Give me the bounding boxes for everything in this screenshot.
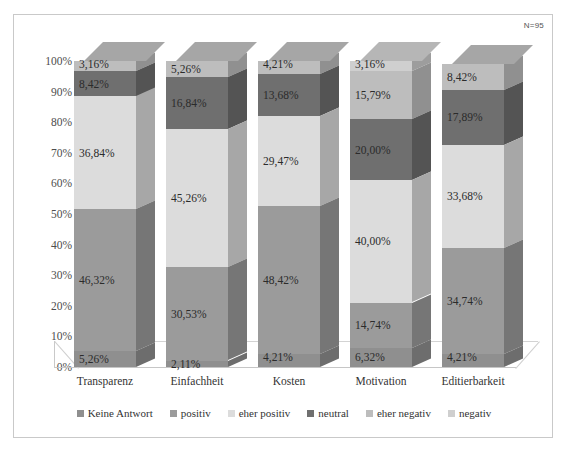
segment-value-label: 14,74%	[355, 319, 390, 331]
segment-value-label: 6,32%	[355, 351, 385, 363]
legend-label: eher negativ	[377, 407, 431, 419]
legend-item-neutral[interactable]: neutral	[307, 407, 349, 419]
y-axis-tick-label: 90%	[26, 86, 72, 98]
segment-side-face	[136, 201, 155, 351]
bar-segment[interactable]: 4,21%	[258, 354, 320, 367]
bar-segment[interactable]: 14,74%	[350, 303, 412, 348]
segment-side-face	[228, 120, 247, 267]
segment-value-label: 48,42%	[263, 274, 298, 286]
segment-value-label: 45,26%	[171, 192, 206, 204]
bar-segment[interactable]: 2,11%	[166, 361, 228, 367]
legend-swatch-icon	[170, 410, 177, 417]
legend-label: neutral	[318, 407, 349, 419]
chart-frame: N=95 0%10%20%30%40%50%60%70%80%90%100% 3…	[13, 14, 553, 438]
bar-segment[interactable]: 3,16%	[350, 61, 412, 71]
bar-segment[interactable]: 5,26%	[74, 351, 136, 367]
legend-label: eher positiv	[239, 407, 291, 419]
segment-value-label: 5,26%	[79, 353, 109, 365]
legend-swatch-icon	[366, 410, 373, 417]
chart-legend: Keine Antwortpositiveher positivneutrale…	[14, 407, 554, 419]
legend-item-positiv[interactable]: positiv	[170, 407, 211, 419]
segment-value-label: 36,84%	[79, 147, 114, 159]
segment-value-label: 16,84%	[171, 97, 206, 109]
bar-transparenz[interactable]: 3,16%8,42%36,84%46,32%5,26%	[74, 61, 136, 367]
x-axis-label-editierbarkeit: Editierbarkeit	[418, 375, 528, 387]
bar-einfachheit[interactable]: 5,26%16,84%45,26%30,53%2,11%	[166, 61, 228, 367]
segment-side-face	[412, 172, 431, 303]
legend-item-keine-antwort[interactable]: Keine Antwort	[77, 407, 153, 419]
bar-stack: 8,42%17,89%33,68%34,74%4,21%	[442, 64, 504, 367]
segment-value-label: 3,16%	[355, 58, 385, 70]
bar-segment[interactable]: 5,26%	[166, 61, 228, 77]
bar-stack: 4,21%13,68%29,47%48,42%4,21%	[258, 61, 320, 367]
y-axis-tick-label: 70%	[26, 147, 72, 159]
bar-segment[interactable]: 16,84%	[166, 77, 228, 129]
bar-segment[interactable]: 33,68%	[442, 145, 504, 248]
y-axis-tick-label: 40%	[26, 239, 72, 251]
segment-side-face	[228, 69, 247, 129]
segment-value-label: 29,47%	[263, 155, 298, 167]
bar-segment[interactable]: 4,21%	[442, 354, 504, 367]
bar-segment[interactable]: 20,00%	[350, 119, 412, 180]
segment-value-label: 8,42%	[447, 71, 477, 83]
segment-value-label: 8,42%	[79, 78, 109, 90]
bar-segment[interactable]: 8,42%	[74, 71, 136, 97]
segment-value-label: 5,26%	[171, 63, 201, 75]
segment-value-label: 34,74%	[447, 295, 482, 307]
segment-value-label: 2,11%	[171, 357, 200, 369]
bar-segment[interactable]: 17,89%	[442, 90, 504, 145]
segment-value-label: 4,21%	[263, 58, 293, 70]
segment-side-face	[320, 107, 339, 206]
legend-label: Keine Antwort	[88, 407, 153, 419]
legend-item-eher-positiv[interactable]: eher positiv	[228, 407, 291, 419]
y-axis-tick-label: 30%	[26, 269, 72, 281]
y-axis-tick-label: 20%	[26, 300, 72, 312]
legend-swatch-icon	[448, 410, 455, 417]
bar-editierbarkeit[interactable]: 8,42%17,89%33,68%34,74%4,21%	[442, 61, 504, 367]
segment-value-label: 46,32%	[79, 274, 114, 286]
bar-segment[interactable]: 4,21%	[258, 61, 320, 74]
segment-value-label: 30,53%	[171, 308, 206, 320]
bar-segment[interactable]: 48,42%	[258, 206, 320, 354]
legend-swatch-icon	[77, 410, 84, 417]
legend-label: positiv	[181, 407, 211, 419]
bar-segment[interactable]: 6,32%	[350, 348, 412, 367]
bar-segment[interactable]: 34,74%	[442, 248, 504, 354]
bar-segment[interactable]: 13,68%	[258, 74, 320, 116]
bar-segment[interactable]: 8,42%	[442, 64, 504, 90]
segment-value-label: 17,89%	[447, 111, 482, 123]
segment-side-face	[228, 259, 247, 361]
bar-stack: 3,16%15,79%20,00%40,00%14,74%6,32%	[350, 61, 412, 367]
segment-side-face	[412, 111, 431, 181]
bar-segment[interactable]: 36,84%	[74, 96, 136, 209]
bar-stack: 3,16%8,42%36,84%46,32%5,26%	[74, 61, 136, 367]
bar-segment[interactable]: 3,16%	[74, 61, 136, 71]
segment-value-label: 3,16%	[79, 58, 109, 70]
bar-segment[interactable]: 29,47%	[258, 116, 320, 206]
bar-segment[interactable]: 46,32%	[74, 209, 136, 351]
segment-value-label: 33,68%	[447, 190, 482, 202]
segment-side-face	[504, 239, 523, 354]
segment-side-face	[136, 88, 155, 209]
bar-stack: 5,26%16,84%45,26%30,53%2,11%	[166, 61, 228, 367]
segment-value-label: 40,00%	[355, 235, 390, 247]
segment-side-face	[504, 82, 523, 145]
legend-item-negativ[interactable]: negativ	[448, 407, 491, 419]
bar-motivation[interactable]: 3,16%15,79%20,00%40,00%14,74%6,32%	[350, 61, 412, 367]
segment-side-face	[320, 198, 339, 355]
segment-value-label: 4,21%	[447, 351, 477, 363]
floor-front-edge	[54, 367, 516, 368]
segment-side-face	[504, 136, 523, 248]
segment-value-label: 4,21%	[263, 351, 293, 363]
legend-item-eher-negativ[interactable]: eher negativ	[366, 407, 431, 419]
y-axis-tick-label: 50%	[26, 208, 72, 220]
legend-label: negativ	[459, 407, 491, 419]
bar-segment[interactable]: 30,53%	[166, 267, 228, 360]
bar-segment[interactable]: 45,26%	[166, 129, 228, 267]
y-axis-tick-label: 80%	[26, 116, 72, 128]
plot-area: 0%10%20%30%40%50%60%70%80%90%100% 3,16%8…	[14, 15, 554, 439]
bar-kosten[interactable]: 4,21%13,68%29,47%48,42%4,21%	[258, 61, 320, 367]
y-axis-tick-label: 100%	[26, 55, 72, 67]
bar-segment[interactable]: 15,79%	[350, 71, 412, 119]
bar-segment[interactable]: 40,00%	[350, 180, 412, 302]
